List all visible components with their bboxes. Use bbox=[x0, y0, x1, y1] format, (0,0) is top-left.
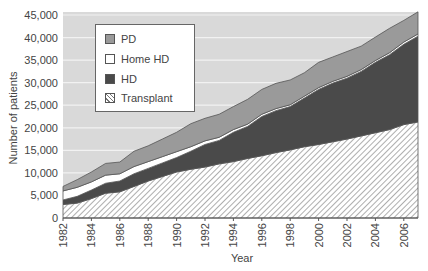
legend-label: HD bbox=[121, 73, 137, 85]
x-tick-label: 2006 bbox=[398, 223, 410, 247]
y-tick-label: 35,000 bbox=[24, 54, 58, 66]
x-tick-label: 2000 bbox=[313, 223, 325, 247]
x-tick-label: 1986 bbox=[114, 223, 126, 247]
legend-item-hd: HD bbox=[105, 72, 137, 86]
hd-swatch-icon bbox=[105, 74, 115, 84]
x-axis-title: Year bbox=[231, 252, 254, 264]
legend-label: Home HD bbox=[121, 53, 169, 65]
y-axis-title: Number of patients bbox=[7, 71, 19, 164]
x-tick-label: 1984 bbox=[85, 223, 97, 247]
y-tick-label: 40,000 bbox=[24, 32, 58, 44]
legend: PD Home HD HD Transplant bbox=[95, 24, 195, 112]
x-axis-ticks: 1982198419861988199019921994199619982000… bbox=[57, 218, 410, 247]
legend-item-transplant: Transplant bbox=[105, 91, 173, 105]
y-tick-label: 0 bbox=[52, 212, 58, 224]
pd-swatch-icon bbox=[105, 34, 115, 44]
legend-label: PD bbox=[121, 33, 136, 45]
x-tick-label: 1994 bbox=[227, 223, 239, 247]
x-tick-label: 2002 bbox=[341, 223, 353, 247]
x-tick-label: 1988 bbox=[142, 223, 154, 247]
transplant-hatch-swatch-icon bbox=[105, 93, 115, 103]
legend-item-home-hd: Home HD bbox=[105, 52, 169, 66]
stacked-area-chart: 05,00010,00015,00020,00025,00030,00035,0… bbox=[0, 0, 428, 271]
y-tick-label: 20,000 bbox=[24, 122, 58, 134]
x-tick-label: 2004 bbox=[369, 223, 381, 247]
x-tick-label: 1998 bbox=[284, 223, 296, 247]
y-axis-ticks: 05,00010,00015,00020,00025,00030,00035,0… bbox=[24, 9, 58, 224]
home-hd-swatch-icon bbox=[105, 54, 115, 64]
x-tick-label: 1992 bbox=[199, 223, 211, 247]
y-tick-label: 10,000 bbox=[24, 167, 58, 179]
y-tick-label: 25,000 bbox=[24, 99, 58, 111]
x-tick-label: 1990 bbox=[171, 223, 183, 247]
y-tick-label: 5,000 bbox=[30, 189, 58, 201]
y-tick-label: 30,000 bbox=[24, 77, 58, 89]
y-tick-label: 15,000 bbox=[24, 144, 58, 156]
y-tick-label: 45,000 bbox=[24, 9, 58, 21]
legend-label: Transplant bbox=[121, 92, 173, 104]
legend-item-pd: PD bbox=[105, 32, 136, 46]
x-tick-label: 1982 bbox=[57, 223, 69, 247]
x-tick-label: 1996 bbox=[256, 223, 268, 247]
